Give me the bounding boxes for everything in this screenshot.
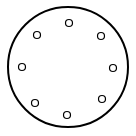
diagram-canvas	[0, 0, 136, 136]
hole-upper-right	[98, 33, 105, 40]
hole-left	[19, 64, 26, 71]
hole-upper-left	[34, 32, 41, 39]
hole-right	[110, 65, 117, 72]
hole-lower-right	[99, 96, 106, 103]
hole-top	[66, 20, 73, 27]
holes-group	[19, 20, 117, 119]
hole-lower-left	[32, 100, 39, 107]
bolt-circle-diagram	[0, 0, 136, 136]
hole-bottom	[64, 112, 71, 119]
